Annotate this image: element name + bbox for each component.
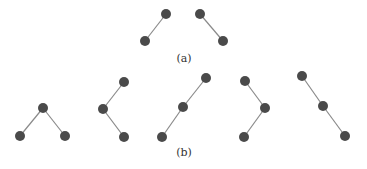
tree-edge (103, 109, 124, 137)
tree-edge (145, 14, 166, 41)
subfigure-label-a: (a) (176, 52, 191, 65)
tree-b-2 (98, 77, 129, 142)
tree-a-1 (140, 9, 171, 46)
tree-b-1 (15, 103, 70, 141)
tree-node (98, 104, 108, 114)
tree-node (119, 132, 129, 142)
tree-node (38, 103, 48, 113)
tree-edge (20, 108, 43, 136)
tree-diagram (0, 0, 367, 169)
tree-node (60, 131, 70, 141)
tree-edge (302, 76, 323, 106)
tree-b-4 (239, 76, 270, 142)
tree-node (157, 132, 167, 142)
tree-node (239, 132, 249, 142)
tree-node (218, 36, 228, 46)
tree-node (240, 76, 250, 86)
tree-edge (244, 108, 265, 137)
tree-edge (323, 106, 345, 136)
tree-node (178, 102, 188, 112)
tree-edge (43, 108, 65, 136)
tree-b-3 (157, 73, 211, 142)
subfigure-label-b: (b) (176, 146, 192, 159)
tree-edge (183, 78, 206, 107)
tree-node (201, 73, 211, 83)
tree-node (195, 9, 205, 19)
tree-node (119, 77, 129, 87)
tree-node (260, 103, 270, 113)
tree-node (297, 71, 307, 81)
tree-edge (103, 82, 124, 109)
tree-edge (200, 14, 223, 41)
tree-node (340, 131, 350, 141)
tree-edge (245, 81, 265, 108)
tree-a-2 (195, 9, 228, 46)
tree-node (161, 9, 171, 19)
tree-b-5 (297, 71, 350, 141)
tree-edge (162, 107, 183, 137)
tree-node (318, 101, 328, 111)
tree-node (140, 36, 150, 46)
tree-node (15, 131, 25, 141)
